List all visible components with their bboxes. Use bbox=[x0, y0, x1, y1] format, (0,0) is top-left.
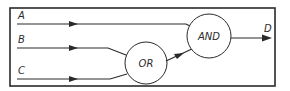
arrow-icon bbox=[69, 76, 78, 82]
input-a-label: A bbox=[17, 10, 25, 21]
or-to-and-wire bbox=[166, 48, 194, 61]
input-c-wire bbox=[17, 74, 127, 82]
output-d-label: D bbox=[264, 23, 272, 34]
and-gate: AND bbox=[187, 14, 231, 58]
arrow-icon bbox=[69, 21, 78, 27]
or-gate-label: OR bbox=[139, 58, 154, 69]
output-d-wire bbox=[231, 35, 272, 42]
and-gate-label: AND bbox=[197, 31, 220, 42]
or-gate: OR bbox=[125, 42, 167, 84]
input-a-wire bbox=[17, 21, 196, 29]
input-c-label: C bbox=[18, 65, 25, 76]
input-b-label: B bbox=[18, 34, 25, 45]
arrow-icon bbox=[69, 45, 78, 51]
input-b-wire bbox=[17, 45, 126, 55]
arrow-icon bbox=[174, 53, 184, 59]
arrow-icon bbox=[262, 35, 272, 42]
logic-diagram: A B C OR AND D bbox=[0, 0, 290, 91]
